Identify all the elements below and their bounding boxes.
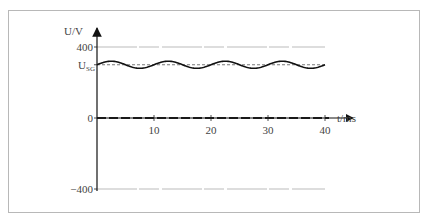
y-tick-label: USG	[78, 59, 95, 73]
voltage-waveform	[97, 61, 325, 68]
x-tick-label: 10	[149, 124, 161, 136]
voltage-time-chart: 10203040400USG0−400 U/V t/ms	[0, 0, 425, 221]
y-tick-label: 0	[88, 112, 94, 124]
y-tick-label: 400	[77, 41, 94, 53]
y-tick-label: −400	[70, 183, 93, 195]
y-axis-label: U/V	[64, 25, 83, 37]
x-tick-label: 20	[206, 124, 218, 136]
x-tick-label: 30	[263, 124, 275, 136]
data-series	[97, 61, 325, 68]
axes	[97, 28, 353, 191]
x-axis-label: t/ms	[337, 112, 356, 124]
x-tick-label: 40	[320, 124, 332, 136]
